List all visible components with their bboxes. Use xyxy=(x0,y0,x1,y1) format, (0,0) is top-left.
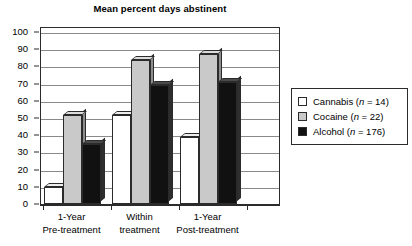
bar xyxy=(82,140,101,204)
y-axis-tick-mark xyxy=(34,66,39,67)
y-axis-tick-label: 20 xyxy=(17,165,28,175)
y-axis-tick-label: 50 xyxy=(17,113,28,123)
legend-swatch-icon xyxy=(298,127,307,136)
x-axis-group-label: Withintreatment xyxy=(119,211,159,236)
bar xyxy=(180,133,199,204)
y-axis-tick-label: 70 xyxy=(17,79,28,89)
x-axis-tick-mark xyxy=(111,205,112,210)
legend-item[interactable]: Alcohol (n = 176) xyxy=(298,124,402,139)
gridline xyxy=(41,67,279,68)
y-axis-tick-label: 10 xyxy=(17,182,28,192)
y-axis-tick-mark xyxy=(34,32,39,33)
legend-swatch-icon xyxy=(298,97,307,106)
bar xyxy=(131,56,150,204)
bar-chart: Mean percent days abstinent 010203040506… xyxy=(0,0,412,246)
legend-item[interactable]: Cocaine (n = 22) xyxy=(298,109,402,124)
x-axis-group-label-line: 1-Year xyxy=(176,211,238,224)
bar-front-face xyxy=(199,54,218,204)
y-axis-tick-mark xyxy=(34,49,39,50)
bar-front-face xyxy=(180,137,199,204)
bar-side-face xyxy=(237,76,241,201)
y-axis-tick-label: 80 xyxy=(17,62,28,72)
legend-label: Alcohol (n = 176) xyxy=(313,127,385,137)
y-axis-tick-mark xyxy=(34,186,39,187)
x-axis-group-label-line: 1-Year xyxy=(42,211,100,224)
x-axis-line xyxy=(40,205,280,206)
y-axis-tick-mark xyxy=(34,83,39,84)
x-axis-tick-mark xyxy=(179,205,180,210)
y-axis-tick-mark xyxy=(34,118,39,119)
bar-front-face xyxy=(82,144,101,204)
legend-label: Cocaine (n = 22) xyxy=(313,112,384,122)
y-axis-tick-label: 60 xyxy=(17,96,28,106)
y-axis-tick-label: 0 xyxy=(23,199,28,209)
y-axis-tick-label: 40 xyxy=(17,130,28,140)
chart-legend: Cannabis (n = 14)Cocaine (n = 22)Alcohol… xyxy=(291,88,408,145)
x-axis-tick-mark xyxy=(247,205,248,210)
bar-side-face xyxy=(101,138,105,201)
y-axis-tick-label: 30 xyxy=(17,148,28,158)
bar xyxy=(44,183,63,204)
y-axis-tick-mark xyxy=(34,135,39,136)
legend-label: Cannabis (n = 14) xyxy=(313,97,389,107)
chart-title: Mean percent days abstinent xyxy=(40,3,280,14)
x-axis-group-label-line: Pre-treatment xyxy=(42,224,100,237)
x-axis-tick-mark xyxy=(43,205,44,210)
gridline xyxy=(41,33,279,34)
bar xyxy=(199,50,218,204)
x-axis-group-label-line: treatment xyxy=(119,224,159,237)
bar-front-face xyxy=(112,115,131,204)
gridline xyxy=(41,50,279,51)
legend-swatch-icon xyxy=(298,112,307,121)
y-axis: 0102030405060708090100 xyxy=(0,27,34,205)
bar xyxy=(112,111,131,204)
bar-front-face xyxy=(218,82,237,204)
bar xyxy=(150,81,169,204)
y-axis-tick-label: 90 xyxy=(17,44,28,54)
bar-side-face xyxy=(169,79,173,201)
y-axis-tick-mark xyxy=(34,152,39,153)
bar xyxy=(218,78,237,204)
y-axis-tick-mark xyxy=(34,169,39,170)
y-axis-tick-label: 100 xyxy=(12,27,28,37)
bar-front-face xyxy=(131,60,150,204)
x-axis-group-label-line: Post-treatment xyxy=(176,224,238,237)
plot-area xyxy=(40,27,280,205)
x-axis-group-label: 1-YearPost-treatment xyxy=(176,211,238,236)
bar xyxy=(63,111,82,204)
bar-front-face xyxy=(150,85,169,204)
x-axis-group-label-line: Within xyxy=(119,211,159,224)
y-axis-tick-mark xyxy=(34,204,39,205)
legend-item[interactable]: Cannabis (n = 14) xyxy=(298,94,402,109)
bar-front-face xyxy=(63,115,82,204)
y-axis-tick-mark xyxy=(34,100,39,101)
x-axis-group-label: 1-YearPre-treatment xyxy=(42,211,100,236)
bar-front-face xyxy=(44,187,63,204)
